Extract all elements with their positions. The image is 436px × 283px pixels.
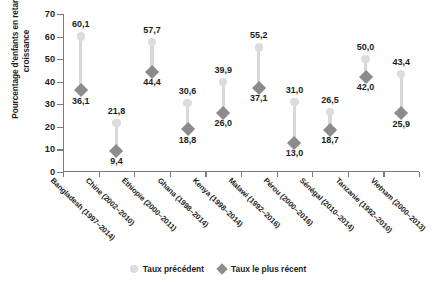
recent-rate-value: 36,1 <box>72 96 90 106</box>
y-tick-label: 50 <box>45 54 55 64</box>
previous-rate-marker[interactable] <box>148 38 156 46</box>
recent-rate-value: 26,0 <box>214 118 232 128</box>
plot-area: 010203040506070 60,136,121,89,457,744,43… <box>63 14 419 172</box>
y-axis-title: Pourcentage d'enfants en retard de crois… <box>10 0 32 136</box>
recent-rate-value: 44,4 <box>143 77 161 87</box>
previous-rate-marker[interactable] <box>112 119 120 127</box>
previous-rate-marker[interactable] <box>183 99 191 107</box>
y-tick-label: 70 <box>45 9 55 19</box>
previous-rate-marker[interactable] <box>255 43 263 51</box>
y-tick-label: 40 <box>45 77 55 87</box>
circle-marker-icon <box>130 265 138 273</box>
previous-rate-marker[interactable] <box>290 98 298 106</box>
previous-rate-value: 30,6 <box>179 86 197 96</box>
recent-rate-value: 9,4 <box>110 156 123 166</box>
previous-rate-value: 39,9 <box>214 65 232 75</box>
recent-rate-value: 13,0 <box>286 148 304 158</box>
y-tick-label: 60 <box>45 32 55 42</box>
x-category-label: Bangladesh (1997–2014) <box>49 176 117 242</box>
recent-rate-value: 18,8 <box>179 135 197 145</box>
previous-rate-marker[interactable] <box>397 70 405 78</box>
previous-rate-marker[interactable] <box>361 55 369 63</box>
chart-legend: Taux précédent Taux le plus récent <box>0 264 436 274</box>
previous-rate-value: 50,0 <box>357 42 375 52</box>
recent-rate-value: 37,1 <box>250 93 268 103</box>
previous-rate-value: 55,2 <box>250 30 268 40</box>
y-tick-label: 10 <box>45 144 55 154</box>
previous-rate-value: 43,4 <box>392 57 410 67</box>
diamond-marker-icon <box>216 263 227 274</box>
recent-rate-value: 42,0 <box>357 82 375 92</box>
previous-rate-marker[interactable] <box>77 32 85 40</box>
previous-rate-value: 57,7 <box>143 25 161 35</box>
y-tick-label: 20 <box>45 122 55 132</box>
recent-rate-value: 18,7 <box>321 135 339 145</box>
previous-rate-value: 60,1 <box>72 19 90 29</box>
previous-rate-marker[interactable] <box>326 108 334 116</box>
legend-item-previous: Taux précédent <box>130 264 204 274</box>
legend-label-previous: Taux précédent <box>143 264 204 274</box>
previous-rate-value: 26,5 <box>321 95 339 105</box>
previous-rate-value: 21,8 <box>108 106 126 116</box>
x-axis-category-labels: Bangladesh (1997–2014)Chine (2002–2010)É… <box>63 176 419 242</box>
previous-rate-value: 31,0 <box>286 85 304 95</box>
series-layer: 60,136,121,89,457,744,430,618,839,926,05… <box>63 14 419 172</box>
stunting-dumbbell-chart: Pourcentage d'enfants en retard de crois… <box>0 0 436 283</box>
legend-label-recent: Taux le plus récent <box>231 264 306 274</box>
previous-rate-marker[interactable] <box>219 78 227 86</box>
recent-rate-value: 25,9 <box>392 119 410 129</box>
y-tick-label: 30 <box>45 99 55 109</box>
legend-item-recent: Taux le plus récent <box>218 264 306 274</box>
